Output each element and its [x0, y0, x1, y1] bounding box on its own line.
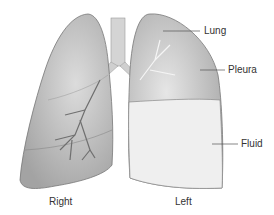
pleura-label: Pleura [228, 65, 257, 75]
lung-label: Lung [204, 26, 226, 36]
right-label: Right [49, 197, 72, 207]
pleural-fluid [129, 99, 223, 188]
lungs-diagram [0, 0, 274, 215]
left-label: Left [175, 197, 192, 207]
right-lung [20, 14, 113, 188]
fluid-label: Fluid [241, 139, 263, 149]
left-lung [129, 14, 223, 189]
